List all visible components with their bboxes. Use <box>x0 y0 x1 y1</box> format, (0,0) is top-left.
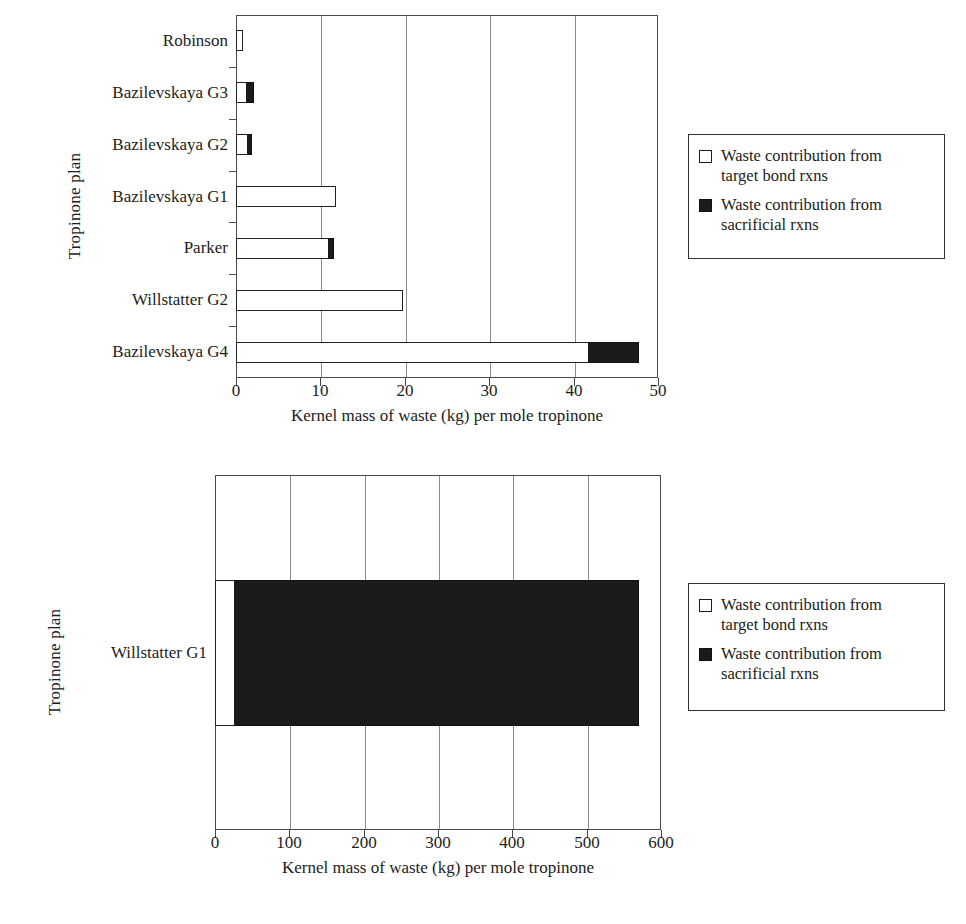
bar-bazilevskaya-g4 <box>236 342 639 363</box>
legend-label: Waste contribution fromsacrificial rxns <box>721 195 882 235</box>
legend-label: Waste contribution fromtarget bond rxns <box>721 146 882 186</box>
bar-bazilevskaya-g2 <box>236 134 252 155</box>
y-tick-label: Bazilevskaya G2 <box>112 136 228 153</box>
bar-segment-target-bond <box>236 82 246 103</box>
bar-segment-target-bond <box>215 580 234 726</box>
legend-swatch-open-icon <box>699 150 712 163</box>
x-tick-label: 10 <box>312 381 329 401</box>
legend-entry[interactable]: Waste contribution fromsacrificial rxns <box>699 195 932 235</box>
y-tick-label: Robinson <box>163 32 228 49</box>
bar-segment-target-bond <box>236 134 247 155</box>
x-tick-label: 0 <box>211 833 220 853</box>
x-tick-label: 300 <box>425 833 451 853</box>
legend-entry[interactable]: Waste contribution fromtarget bond rxns <box>699 595 932 635</box>
gridline <box>406 16 407 377</box>
y-tick-label: Bazilevskaya G4 <box>112 343 228 360</box>
x-tick-label: 400 <box>499 833 525 853</box>
legend-entry[interactable]: Waste contribution fromtarget bond rxns <box>699 146 932 186</box>
y-tick-mark <box>229 67 236 68</box>
x-tick-label: 30 <box>481 381 498 401</box>
bar-willstatter-g1 <box>215 580 639 726</box>
bar-segment-sacrificial <box>246 82 254 103</box>
x-tick-label: 20 <box>397 381 414 401</box>
legend-label: Waste contribution fromtarget bond rxns <box>721 595 882 635</box>
legend-entry[interactable]: Waste contribution fromsacrificial rxns <box>699 644 932 684</box>
x-axis-title-bottom: Kernel mass of waste (kg) per mole tropi… <box>215 858 661 878</box>
legend-swatch-solid-icon <box>699 199 712 212</box>
bar-bazilevskaya-g1 <box>236 186 336 207</box>
bar-segment-target-bond <box>236 342 588 363</box>
bar-robinson <box>236 30 243 51</box>
y-tick-label: Willstatter G1 <box>111 644 207 661</box>
legend-bottom: Waste contribution fromtarget bond rxnsW… <box>688 583 945 711</box>
y-tick-mark <box>229 222 236 223</box>
y-tick-label: Parker <box>184 239 228 256</box>
legend-swatch-open-icon <box>699 599 712 612</box>
bar-bazilevskaya-g3 <box>236 82 254 103</box>
bar-segment-target-bond <box>236 290 403 311</box>
bar-segment-sacrificial <box>247 134 252 155</box>
y-tick-label: Bazilevskaya G3 <box>112 84 228 101</box>
bar-segment-sacrificial <box>328 238 334 259</box>
bar-segment-target-bond <box>236 186 336 207</box>
bar-willstatter-g2 <box>236 290 403 311</box>
bar-segment-sacrificial <box>234 580 639 726</box>
bar-segment-sacrificial <box>588 342 639 363</box>
x-tick-label: 50 <box>650 381 667 401</box>
gridline <box>490 16 491 377</box>
legend-label: Waste contribution fromsacrificial rxns <box>721 644 882 684</box>
bar-parker <box>236 238 334 259</box>
y-tick-mark <box>229 326 236 327</box>
chart-bottom: Tropinone plan Willstatter G1 0100200300… <box>0 460 966 924</box>
legend-swatch-solid-icon <box>699 648 712 661</box>
legend-top: Waste contribution fromtarget bond rxnsW… <box>688 134 945 259</box>
x-tick-label: 0 <box>232 381 241 401</box>
gridline <box>575 16 576 377</box>
y-axis-title-top: Tropinone plan <box>65 153 85 260</box>
y-axis-title-bottom: Tropinone plan <box>45 609 65 716</box>
x-tick-label: 600 <box>648 833 674 853</box>
x-tick-label: 100 <box>276 833 302 853</box>
y-tick-mark <box>229 274 236 275</box>
y-tick-label: Willstatter G2 <box>132 291 228 308</box>
x-tick-label: 200 <box>351 833 377 853</box>
bar-segment-target-bond <box>236 238 328 259</box>
chart-top: Tropinone plan RobinsonBazilevskaya G3Ba… <box>0 0 966 460</box>
y-tick-mark <box>229 171 236 172</box>
y-tick-mark <box>229 119 236 120</box>
x-axis-title-top: Kernel mass of waste (kg) per mole tropi… <box>236 406 658 426</box>
y-tick-label: Bazilevskaya G1 <box>112 188 228 205</box>
bar-segment-target-bond <box>236 30 243 51</box>
x-tick-label: 500 <box>574 833 600 853</box>
x-tick-label: 40 <box>566 381 583 401</box>
